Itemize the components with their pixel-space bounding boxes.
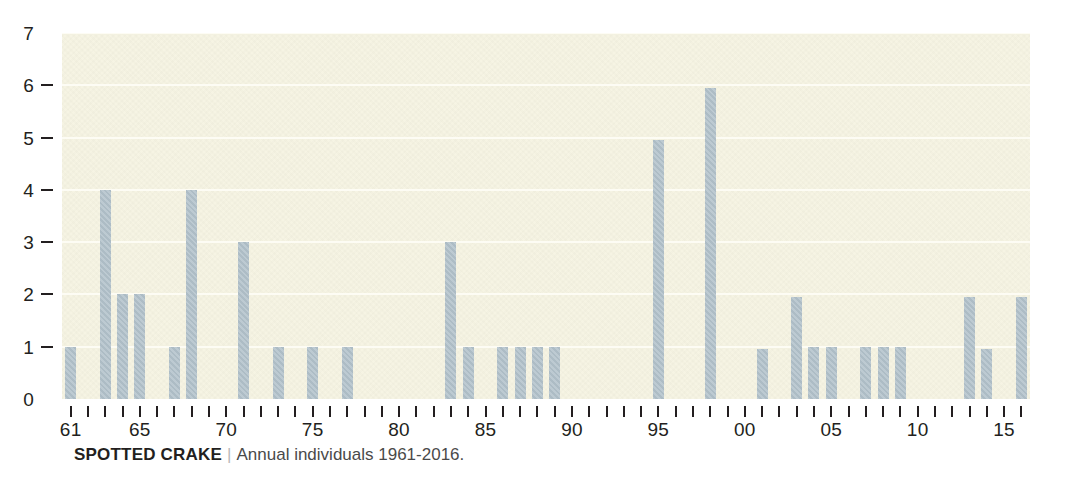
x-tick-mark <box>969 406 971 417</box>
gridline <box>62 189 1030 191</box>
x-tick-mark <box>502 406 504 417</box>
x-tick-mark <box>467 406 469 417</box>
x-tick-mark <box>139 406 141 417</box>
x-tick-mark <box>450 406 452 417</box>
bar <box>1016 297 1027 399</box>
x-tick-mark <box>260 406 262 417</box>
x-tick-mark <box>70 406 72 417</box>
bar <box>826 347 837 399</box>
x-tick-mark <box>415 406 417 417</box>
x-tick-mark <box>329 406 331 417</box>
bar <box>964 297 975 399</box>
x-tick-mark <box>554 406 556 417</box>
x-tick-mark <box>917 406 919 417</box>
y-tick-mark <box>41 346 53 348</box>
bar <box>134 294 145 399</box>
y-tick-label: 6 <box>23 76 34 95</box>
x-tick-mark <box>986 406 988 417</box>
x-tick-mark <box>243 406 245 417</box>
gridline <box>62 137 1030 139</box>
x-tick-mark <box>709 406 711 417</box>
bar <box>808 347 819 399</box>
bar <box>653 140 664 399</box>
x-tick-mark <box>173 406 175 417</box>
x-tick-mark <box>433 406 435 417</box>
gridline <box>62 293 1030 295</box>
x-tick-mark <box>848 406 850 417</box>
y-tick-label: 7 <box>23 24 34 43</box>
x-tick-label: 80 <box>388 420 410 439</box>
x-tick-mark <box>485 406 487 417</box>
x-tick-mark <box>744 406 746 417</box>
y-tick-label: 3 <box>23 233 34 252</box>
x-tick-mark <box>381 406 383 417</box>
bar <box>307 347 318 399</box>
caption-description: Annual individuals 1961-2016. <box>236 445 464 464</box>
x-tick-mark <box>865 406 867 417</box>
x-tick-mark <box>778 406 780 417</box>
y-tick-mark <box>41 293 53 295</box>
bar <box>532 347 543 399</box>
x-tick-mark <box>346 406 348 417</box>
x-tick-mark <box>588 406 590 417</box>
x-tick-mark <box>571 406 573 417</box>
bar <box>273 347 284 399</box>
y-tick-label: 0 <box>23 390 34 409</box>
bar <box>757 349 768 399</box>
bar <box>238 242 249 399</box>
x-tick-mark <box>882 406 884 417</box>
y-tick-mark <box>41 84 53 86</box>
x-tick-mark <box>191 406 193 417</box>
x-tick-mark <box>312 406 314 417</box>
x-tick-mark <box>294 406 296 417</box>
y-tick-label: 5 <box>23 128 34 147</box>
x-tick-label: 65 <box>129 420 151 439</box>
y-tick-label: 1 <box>23 337 34 356</box>
chart-caption: SPOTTED CRAKE|Annual individuals 1961-20… <box>74 446 464 463</box>
x-tick-label: 85 <box>475 420 497 439</box>
x-tick-label: 90 <box>561 420 583 439</box>
bar <box>342 347 353 399</box>
x-tick-mark <box>675 406 677 417</box>
x-axis: 616570758085909500051015 <box>62 399 1030 439</box>
bar-chart-figure: 01234567 616570758085909500051015 SPOTTE… <box>0 0 1066 479</box>
bar <box>705 88 716 399</box>
x-tick-mark <box>104 406 106 417</box>
y-tick-mark <box>41 189 53 191</box>
x-tick-mark <box>761 406 763 417</box>
x-tick-label: 15 <box>993 420 1015 439</box>
x-tick-label: 05 <box>820 420 842 439</box>
x-tick-mark <box>623 406 625 417</box>
bar <box>895 347 906 399</box>
caption-title: SPOTTED CRAKE <box>74 445 222 464</box>
x-tick-mark <box>536 406 538 417</box>
x-tick-mark <box>225 406 227 417</box>
x-tick-mark <box>87 406 89 417</box>
gridline <box>62 33 1030 34</box>
plot-area <box>62 33 1030 399</box>
bar <box>463 347 474 399</box>
bar <box>878 347 889 399</box>
x-tick-mark <box>156 406 158 417</box>
bar <box>549 347 560 399</box>
x-tick-label: 10 <box>907 420 929 439</box>
x-tick-mark <box>899 406 901 417</box>
x-tick-mark <box>692 406 694 417</box>
x-tick-mark <box>122 406 124 417</box>
x-tick-mark <box>727 406 729 417</box>
bar <box>117 294 128 399</box>
bar <box>791 297 802 399</box>
x-tick-mark <box>640 406 642 417</box>
x-tick-mark <box>277 406 279 417</box>
bar <box>981 349 992 399</box>
x-tick-label: 95 <box>648 420 670 439</box>
y-tick-mark <box>41 137 53 139</box>
x-tick-mark <box>208 406 210 417</box>
x-tick-label: 61 <box>60 420 82 439</box>
x-tick-mark <box>1020 406 1022 417</box>
x-tick-mark <box>934 406 936 417</box>
x-tick-label: 70 <box>215 420 237 439</box>
x-tick-mark <box>364 406 366 417</box>
x-tick-mark <box>951 406 953 417</box>
bar <box>169 347 180 399</box>
